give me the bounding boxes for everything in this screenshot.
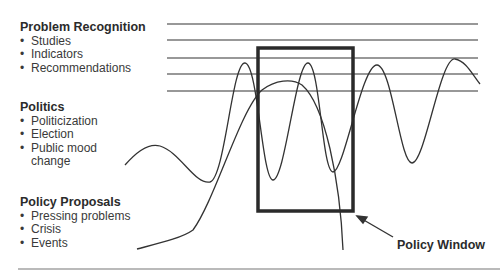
problem-stream-lines <box>167 24 478 91</box>
streams-diagram <box>0 0 503 274</box>
policy-window-box <box>258 48 353 211</box>
policy-window-label: Policy Window <box>397 238 485 252</box>
policy-proposals-curve <box>137 81 343 250</box>
arrow-icon <box>357 216 393 237</box>
politics-stream-curve <box>125 59 480 182</box>
